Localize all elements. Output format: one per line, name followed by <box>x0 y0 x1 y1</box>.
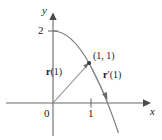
y-tick-label-2: 2 <box>38 25 44 36</box>
x-tick-label-1: 1 <box>88 108 94 119</box>
tangent-vector-arrowhead <box>102 92 107 101</box>
position-vector-label-rest: (1) <box>50 66 62 77</box>
figure-canvas <box>0 0 162 140</box>
x-axis-label: x <box>150 106 155 117</box>
point-marker-1-1 <box>87 61 91 65</box>
vector-calculus-figure: y x 2 1 0 (1, 1) r(1) r′(1) <box>0 0 162 140</box>
y-axis-label: y <box>42 5 47 16</box>
y-axis-arrowhead <box>49 13 56 21</box>
point-label-1-1: (1, 1) <box>93 51 115 61</box>
origin-label: 0 <box>44 108 50 119</box>
tangent-vector-label: r′(1) <box>103 70 121 80</box>
position-vector-label: r(1) <box>46 67 62 77</box>
tangent-vector-label-rest: ′(1) <box>107 69 121 80</box>
parabola-curve <box>53 31 119 133</box>
